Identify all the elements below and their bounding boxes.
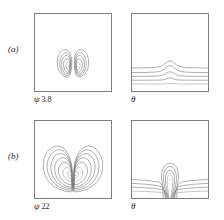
caption-b-temp-symbol: θ: [131, 201, 135, 211]
streamfunction-contours-b: [35, 121, 111, 198]
panel-b-temperature: [131, 120, 209, 199]
figure-row-b: (b): [0, 110, 224, 217]
row-label-b: (b): [8, 151, 19, 161]
contour-figure: (a) ψ3.8: [0, 0, 224, 220]
caption-b-stream-symbol: ψ: [34, 201, 40, 211]
caption-b-stream-value: 22: [42, 202, 50, 211]
caption-a-temperature: θ: [131, 94, 135, 104]
caption-b-streamfunction: ψ22: [34, 201, 50, 211]
caption-a-stream-symbol: ψ: [34, 94, 40, 104]
panel-a-streamfunction: [34, 13, 112, 92]
panel-b-streamfunction: [34, 120, 112, 199]
isotherm-contours-a: [132, 14, 208, 91]
streamfunction-contours-a: [35, 14, 111, 91]
caption-a-stream-value: 3.8: [42, 95, 52, 104]
row-label-a: (a): [8, 44, 19, 54]
panel-a-temperature: [131, 13, 209, 92]
caption-a-temp-symbol: θ: [131, 94, 135, 104]
figure-row-a: (a) ψ3.8: [0, 3, 224, 110]
caption-b-temperature: θ: [131, 201, 135, 211]
isotherm-contours-b: [132, 121, 208, 198]
caption-a-streamfunction: ψ3.8: [34, 94, 52, 104]
